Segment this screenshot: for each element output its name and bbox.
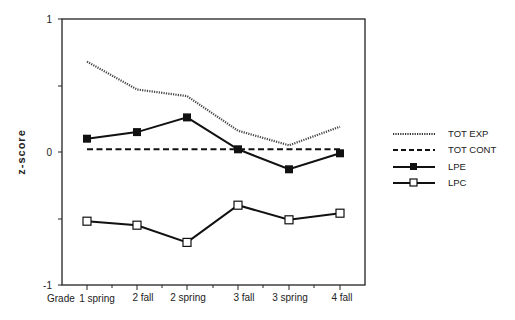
y-axis: 1 0 -1 z-score xyxy=(15,14,62,291)
x-tick-label: 3 spring xyxy=(272,292,308,303)
filled-square-marker-icon xyxy=(183,113,191,121)
legend-label: LPE xyxy=(448,161,466,172)
open-square-marker-icon xyxy=(234,201,242,209)
y-tick-label: 1 xyxy=(46,14,52,25)
x-tick-label: 2 fall xyxy=(132,292,153,303)
series-lpc xyxy=(83,201,344,246)
open-square-marker-icon xyxy=(133,221,141,229)
series-layer xyxy=(83,62,344,247)
filled-square-marker-icon xyxy=(410,163,417,170)
filled-square-marker-icon xyxy=(234,145,242,153)
line-chart: 1 0 -1 z-score Grade 1 spring 2 fall 2 s… xyxy=(0,0,515,320)
x-axis-prefix: Grade xyxy=(47,293,75,304)
x-tick-label: 2 spring xyxy=(170,292,206,303)
filled-square-marker-icon xyxy=(83,135,91,143)
x-tick-label: 4 fall xyxy=(331,292,352,303)
filled-square-marker-icon xyxy=(285,165,293,173)
legend-item-lpe: LPE xyxy=(393,161,466,172)
open-square-marker-icon xyxy=(83,217,91,225)
legend-item-lpc: LPC xyxy=(393,177,467,188)
open-square-marker-icon xyxy=(183,238,191,246)
legend-item-tot-exp: TOT EXP xyxy=(393,128,488,139)
x-tick-label: 1 spring xyxy=(79,293,115,304)
legend-label: LPC xyxy=(448,177,467,188)
filled-square-marker-icon xyxy=(336,149,344,157)
legend-label: TOT EXP xyxy=(448,128,488,139)
x-tick-labels: Grade 1 spring 2 fall 2 spring 3 fall 3 … xyxy=(47,292,353,304)
legend-item-tot-cont: TOT CONT xyxy=(393,144,496,155)
plot-frame xyxy=(62,19,365,285)
series-lpe xyxy=(83,113,344,173)
y-tick-label: 0 xyxy=(46,147,52,158)
x-axis xyxy=(87,285,340,290)
series-line xyxy=(87,205,340,242)
x-tick-label: 3 fall xyxy=(233,292,254,303)
y-axis-title: z-score xyxy=(15,129,27,175)
series-line xyxy=(87,117,340,169)
filled-square-marker-icon xyxy=(133,128,141,136)
legend-label: TOT CONT xyxy=(448,144,496,155)
open-square-marker-icon xyxy=(285,216,293,224)
open-square-marker-icon xyxy=(336,209,344,217)
legend: TOT EXP TOT CONT LPE LPC xyxy=(393,128,496,188)
open-square-marker-icon xyxy=(410,179,417,186)
y-tick-label: -1 xyxy=(43,280,52,291)
